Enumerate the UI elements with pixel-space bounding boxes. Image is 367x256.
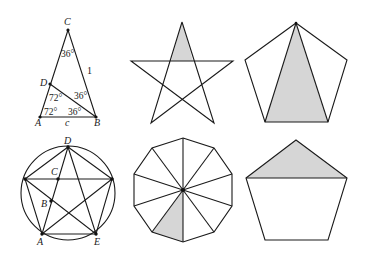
circumcircle [21,146,115,240]
golden-triangle-panel: C D A B 1 c 36° 72° 36° 72° 36° [34,16,100,128]
pentagon-cap-panel [246,140,347,240]
point-right [110,177,113,180]
label-d: D [39,77,48,88]
label-b: B [94,117,100,128]
angle-a: 72° [44,107,58,117]
label-side-1: 1 [87,65,92,76]
pentagon-triangle-panel [245,22,347,122]
apex-point [295,22,298,25]
diagram-canvas: C D A B 1 c 36° 72° 36° 72° 36° D C [0,0,367,256]
shaded-cap [246,140,347,178]
point-d [48,82,51,85]
label-c: C [51,166,58,177]
point-b [49,199,52,202]
point-left [23,177,26,180]
angle-c: 36° [61,49,75,59]
point-c [66,28,69,31]
angle-b-lower: 36° [68,107,82,117]
pentagram-panel [131,22,233,123]
shaded-triangle [265,23,328,122]
center-point [181,188,185,192]
angle-d: 72° [49,93,63,103]
label-e: E [93,236,100,247]
angle-b-upper: 36° [74,91,88,101]
shaded-sector [152,190,183,242]
decagon-panel [134,138,232,242]
inscribed-pentagram-panel: D C B A E [21,135,115,247]
point-c [56,177,59,180]
shaded-tip [171,22,193,61]
inscribed-pentagon [25,147,112,234]
label-a: A [36,236,44,247]
label-d: D [63,135,72,146]
label-side-c: c [65,117,70,128]
label-a: A [34,117,42,128]
label-c: C [64,16,71,27]
label-b: B [41,198,47,209]
